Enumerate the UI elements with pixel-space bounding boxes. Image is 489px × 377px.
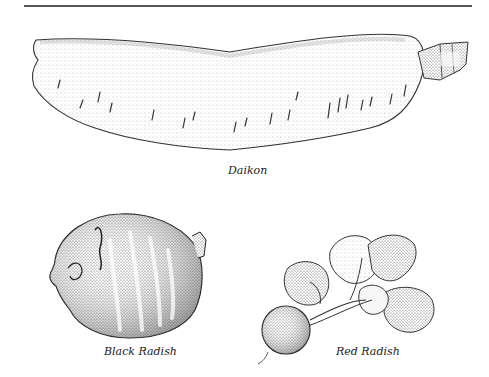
black-radish-drawing (50, 214, 206, 338)
daikon-caption: Daikon (228, 164, 267, 177)
black-radish-caption: Black Radish (104, 345, 177, 358)
daikon-drawing (32, 34, 468, 150)
red-radish-caption: Red Radish (336, 345, 400, 358)
radish-illustrations (0, 0, 489, 377)
